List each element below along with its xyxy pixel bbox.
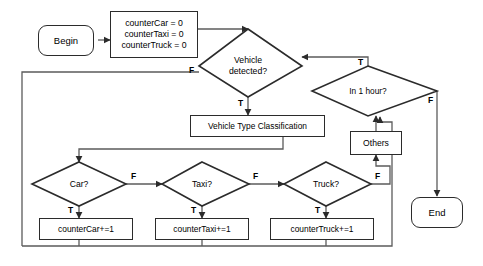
node-begin-label: Begin xyxy=(54,35,78,47)
shape-car xyxy=(32,162,126,206)
shape-taxi xyxy=(162,162,249,206)
edge-label-taxi-true: T xyxy=(191,206,196,215)
node-begin[interactable]: Begin xyxy=(38,25,94,56)
node-init-line2: counterTaxi = 0 xyxy=(124,29,183,40)
node-counter-truck-label: counterTruck+=1 xyxy=(290,224,353,235)
node-init-line1: counterCar = 0 xyxy=(125,18,183,29)
edge-label-text: F xyxy=(189,65,194,75)
node-end-label: End xyxy=(429,207,446,219)
shape-truck xyxy=(284,162,371,206)
shape-in-one-hour xyxy=(312,66,437,116)
edge-classification-to-car xyxy=(79,137,283,162)
node-others-label: Others xyxy=(363,138,389,149)
flowchart-canvas: Begin counterCar = 0 counterTaxi = 0 cou… xyxy=(0,0,483,266)
node-classification[interactable]: Vehicle Type Classification xyxy=(190,115,325,137)
edge-label-in-one-hour-false: F xyxy=(428,96,433,105)
edge-label-car-true: T xyxy=(68,206,73,215)
node-init[interactable]: counterCar = 0 counterTaxi = 0 counterTr… xyxy=(110,11,198,58)
edge-label-text: T xyxy=(191,205,196,215)
edge-label-vehicle-detected-false: F xyxy=(189,66,194,75)
node-others[interactable]: Others xyxy=(350,131,402,155)
node-counter-truck[interactable]: counterTruck+=1 xyxy=(270,218,374,240)
node-counter-taxi[interactable]: counterTaxi+=1 xyxy=(155,218,249,240)
node-counter-car[interactable]: counterCar+=1 xyxy=(39,218,133,240)
edge-label-truck-true: T xyxy=(315,206,320,215)
edge-label-text: F xyxy=(428,95,433,105)
node-end[interactable]: End xyxy=(411,197,463,228)
edge-label-truck-false: F xyxy=(375,172,380,181)
edge-label-in-one-hour-true: T xyxy=(358,58,363,67)
edge-truck-false xyxy=(371,155,390,184)
edge-label-text: T xyxy=(315,205,320,215)
node-counter-taxi-label: counterTaxi+=1 xyxy=(173,224,230,235)
edge-label-text: F xyxy=(253,171,258,181)
node-counter-car-label: counterCar+=1 xyxy=(58,224,114,235)
node-init-line3: counterTruck = 0 xyxy=(121,40,186,51)
edge-label-text: T xyxy=(238,98,243,108)
node-classification-label: Vehicle Type Classification xyxy=(208,121,307,132)
edge-label-text: T xyxy=(68,205,73,215)
edge-label-text: T xyxy=(358,57,363,67)
edge-label-vehicle-detected-true: T xyxy=(238,99,243,108)
edge-label-taxi-false: F xyxy=(253,172,258,181)
shape-vehicle-detected xyxy=(199,29,302,97)
edge-label-car-false: F xyxy=(131,172,136,181)
edge-label-text: F xyxy=(131,171,136,181)
edge-label-text: F xyxy=(375,171,380,181)
